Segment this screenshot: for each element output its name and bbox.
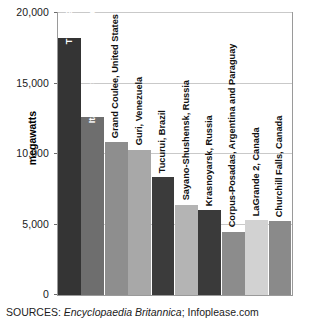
bar-label: Sayano-Shushensk, Russia — [181, 81, 190, 201]
bar-label: Corpus-Posadas, Argentina and Paraguay — [228, 44, 237, 228]
bar-label: Itaipu, Brazil and Paraguay — [88, 6, 97, 123]
sources-prefix: SOURCES: — [6, 306, 61, 318]
bar-label: Krasnoyarsk, Russia — [205, 115, 214, 206]
bar-rect — [105, 142, 128, 295]
bar-label: Tucurui, Brazil — [158, 110, 167, 173]
bar-rect — [58, 38, 81, 295]
bar-group: Corpus-Posadas, Argentina and Paraguay — [222, 13, 245, 295]
bar-group: Krasnoyarsk, Russia — [198, 13, 221, 295]
bar-rect — [222, 232, 245, 295]
bar-label: Three Gorges, China — [64, 0, 73, 44]
bar-group: Churchill Falls, Canada — [269, 13, 292, 295]
bar-series: Three Gorges, ChinaItaipu, Brazil and Pa… — [58, 13, 292, 295]
bar-rect — [128, 150, 151, 295]
y-tick-label-10000: 10,000 — [0, 147, 49, 159]
y-tick-label-15000: 15,000 — [0, 77, 49, 89]
y-axis-title: megawatts — [26, 98, 38, 178]
bar-group: Three Gorges, China — [58, 13, 81, 295]
bar-label: Churchill Falls, Canada — [275, 116, 284, 218]
source-separator: ; — [182, 306, 185, 318]
bar-label: LaGrande 2, Canada — [251, 127, 260, 216]
bar-rect — [198, 210, 221, 295]
source-infoplease: Infoplease.com — [188, 306, 259, 318]
bar-rect — [152, 177, 175, 295]
bar-group: Sayano-Shushensk, Russia — [175, 13, 198, 295]
bar-label: Grand Coulee, United States — [111, 14, 120, 138]
bar-group: Guri, Venezuela — [128, 13, 151, 295]
bar-rect — [175, 205, 198, 295]
bar-group: LaGrande 2, Canada — [245, 13, 268, 295]
hydroelectric-capacity-bar-chart: megawatts 05,00010,00015,00020,000 Three… — [0, 0, 313, 330]
y-tick-label-5000: 5,000 — [0, 218, 49, 230]
bar-rect — [81, 117, 104, 295]
bar-label: Guri, Venezuela — [134, 77, 143, 146]
source-britannica: Encyclopaedia Britannica — [64, 306, 182, 318]
bar-group: Grand Coulee, United States — [105, 13, 128, 295]
source-note: SOURCES: Encyclopaedia Britannica; Infop… — [6, 306, 259, 318]
bar-rect — [245, 220, 268, 295]
bar-rect — [269, 221, 292, 295]
y-tick-label-0: 0 — [0, 288, 49, 300]
bar-group: Tucurui, Brazil — [152, 13, 175, 295]
bar-group: Itaipu, Brazil and Paraguay — [81, 13, 104, 295]
y-tick-label-20000: 20,000 — [0, 6, 49, 18]
